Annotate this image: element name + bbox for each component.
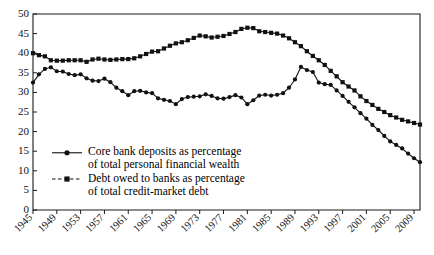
data-point-marker-circle [311, 70, 315, 74]
data-point-marker-circle [96, 79, 100, 83]
data-point-marker-circle [329, 83, 333, 87]
legend-marker-square [64, 176, 69, 181]
legend-label-line1-1: Core bank deposits as percentage [88, 145, 241, 158]
data-point-marker-circle [102, 77, 106, 81]
data-point-marker-square [132, 56, 136, 60]
data-point-marker-circle [37, 72, 41, 76]
data-point-marker-circle [43, 67, 47, 71]
data-point-marker-square [329, 69, 333, 73]
data-point-marker-square [251, 26, 255, 30]
data-point-marker-square [382, 110, 386, 114]
data-point-marker-circle [299, 65, 303, 69]
data-point-marker-square [287, 36, 291, 40]
data-point-marker-square [120, 57, 124, 61]
data-point-marker-circle [376, 128, 380, 132]
data-point-marker-square [311, 54, 315, 58]
data-point-marker-circle [221, 97, 225, 101]
data-point-marker-circle [251, 98, 255, 102]
data-point-marker-square [275, 32, 279, 36]
data-point-marker-square [281, 33, 285, 37]
data-point-marker-circle [168, 99, 172, 103]
data-point-marker-circle [67, 72, 71, 76]
legend-label-line2-1: of total personal financial wealth [88, 158, 240, 171]
data-point-marker-circle [275, 93, 279, 97]
data-point-marker-square [180, 40, 184, 44]
data-point-marker-square [352, 88, 356, 92]
data-point-marker-square [406, 119, 410, 123]
data-point-marker-circle [120, 89, 124, 93]
data-point-marker-circle [31, 81, 35, 85]
data-point-marker-circle [335, 88, 339, 92]
data-point-marker-square [186, 38, 190, 42]
data-point-marker-square [317, 58, 321, 62]
data-point-marker-circle [215, 96, 219, 100]
data-point-marker-circle [174, 102, 178, 106]
data-point-marker-square [341, 80, 345, 84]
data-point-marker-square [156, 49, 160, 53]
data-point-marker-circle [412, 156, 416, 160]
data-point-marker-circle [180, 97, 184, 101]
data-point-marker-circle [144, 90, 148, 94]
data-point-marker-square [192, 36, 196, 40]
y-tick-label: 25 [18, 105, 30, 117]
data-point-marker-square [227, 32, 231, 36]
data-point-marker-circle [49, 65, 53, 69]
data-point-marker-square [174, 41, 178, 45]
data-point-marker-circle [204, 92, 208, 96]
data-point-marker-square [269, 31, 273, 35]
data-point-marker-circle [84, 76, 88, 80]
data-point-marker-square [388, 113, 392, 117]
data-point-marker-square [150, 50, 154, 54]
data-point-marker-circle [346, 100, 350, 104]
data-point-marker-circle [61, 70, 65, 74]
data-point-marker-square [55, 59, 59, 63]
data-point-marker-circle [192, 95, 196, 99]
y-tick-label: 20 [18, 125, 30, 137]
data-point-marker-square [233, 30, 237, 34]
data-point-marker-square [245, 26, 249, 30]
data-point-marker-circle [150, 91, 154, 95]
data-point-marker-circle [245, 102, 249, 106]
data-point-marker-circle [79, 72, 83, 76]
data-point-marker-circle [341, 94, 345, 98]
data-point-marker-circle [227, 95, 231, 99]
data-point-marker-circle [323, 82, 327, 86]
data-point-marker-square [257, 29, 261, 33]
data-point-marker-circle [400, 146, 404, 150]
data-point-marker-square [198, 33, 202, 37]
data-point-marker-circle [90, 79, 94, 83]
chart-container: 05101520253035404550 1945194919531957196… [0, 0, 434, 255]
data-point-marker-square [418, 122, 422, 126]
data-point-marker-square [162, 46, 166, 50]
data-point-marker-square [215, 35, 219, 39]
data-point-marker-square [358, 94, 362, 98]
data-point-marker-square [31, 51, 35, 55]
data-point-marker-square [239, 27, 243, 31]
data-point-marker-circle [370, 123, 374, 127]
data-point-marker-square [96, 57, 100, 61]
data-point-marker-circle [55, 69, 59, 73]
data-point-marker-square [126, 57, 130, 61]
data-point-marker-square [67, 58, 71, 62]
legend-label-line2-2: of total credit-market debt [88, 185, 209, 197]
data-point-marker-square [114, 57, 118, 61]
data-point-marker-circle [114, 86, 118, 90]
data-point-marker-square [90, 57, 94, 61]
data-point-marker-square [299, 44, 303, 48]
data-point-marker-circle [293, 77, 297, 81]
data-point-marker-circle [352, 105, 356, 109]
data-point-marker-circle [239, 95, 243, 99]
data-point-marker-square [412, 121, 416, 125]
data-point-marker-square [108, 58, 112, 62]
data-point-marker-circle [186, 95, 190, 99]
data-point-marker-square [323, 63, 327, 67]
data-point-marker-square [335, 74, 339, 78]
data-point-marker-circle [132, 89, 136, 93]
data-point-marker-square [210, 35, 214, 39]
data-point-marker-circle [287, 86, 291, 90]
data-point-marker-circle [162, 98, 166, 102]
y-tick-label: 50 [18, 7, 30, 19]
data-point-marker-square [79, 58, 83, 62]
data-point-marker-square [49, 58, 53, 62]
data-point-marker-circle [317, 81, 321, 85]
